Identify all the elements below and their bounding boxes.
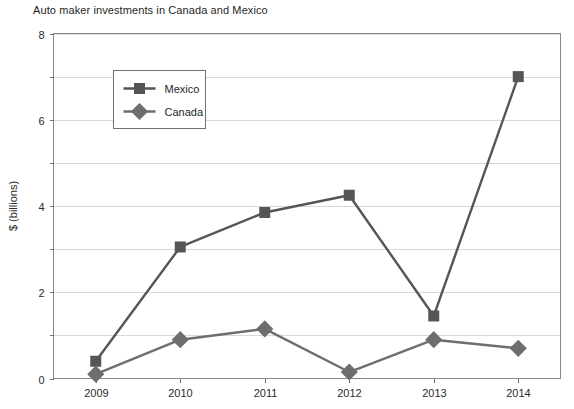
data-point-marker [87,366,104,383]
legend-box [114,71,206,129]
x-tick-label: 2012 [337,387,361,399]
y-tick-label: 2 [38,287,44,299]
x-tick-label: 2014 [506,387,530,399]
legend-label-canada: Canada [165,106,204,118]
x-tick-label: 2013 [422,387,446,399]
data-point-marker [344,190,355,201]
data-point-marker [428,310,439,321]
data-point-marker [513,71,524,82]
data-point-marker [425,331,442,348]
data-point-marker [175,241,186,252]
y-tick-label: 6 [38,115,44,127]
y-axis-tick-labels: 02468 [38,29,44,386]
chart-legend: MexicoCanada [114,71,206,129]
x-axis-tick-labels: 200920102011201220132014 [84,387,530,399]
data-point-marker [90,356,101,367]
legend-marker-mexico [134,83,145,94]
y-axis-ticks [50,35,54,380]
data-point-marker [510,340,527,357]
y-axis-title: $ (billions) [7,181,19,231]
y-tick-label: 0 [38,374,44,386]
chart-container: Auto maker investments in Canada and Mex… [0,0,574,409]
x-axis-ticks [97,379,519,383]
line-chart: 02468 200920102011201220132014 $ (billio… [0,0,574,409]
legend-label-mexico: Mexico [165,83,200,95]
series-canada [87,320,527,382]
y-tick-label: 4 [38,201,44,213]
x-tick-label: 2011 [254,387,278,399]
data-point-marker [259,207,270,218]
y-tick-label: 8 [38,29,44,41]
data-point-marker [256,320,273,337]
x-tick-label: 2010 [168,387,192,399]
data-point-marker [172,331,189,348]
x-tick-label: 2009 [84,387,108,399]
